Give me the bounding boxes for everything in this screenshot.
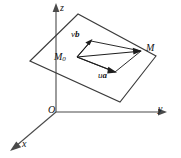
x-axis-label: x [22,139,26,149]
diagram-svg [0,0,181,158]
vector-ua-arrow-icon [107,67,117,74]
vector-vb-name: b [75,29,80,39]
vector-vb-arrow-icon [85,39,92,45]
x-axis [10,112,56,151]
point-m0-label: M0 [54,52,66,63]
point-m0-subscript: 0 [62,55,66,63]
y-axis-label: y [158,104,162,114]
vector-ua-name: a [103,70,108,80]
figure-canvas: z y x O M0 M vb ua [0,0,181,158]
y-axis [56,109,167,116]
parallelogram-edge-bottom [115,51,141,72]
plane-outline [30,14,156,102]
vector-ua-label: ua [98,71,107,80]
vector-m0m-shaft [77,52,137,58]
vector-ua [77,57,117,74]
vector-vb [77,39,93,57]
vector-ua-shaft [77,57,113,71]
plane-parallelogram [30,14,156,102]
z-axis-arrow-icon [53,3,60,12]
coordinate-axes [10,3,167,151]
vector-vb-label: vb [71,30,80,39]
z-axis-label: z [60,3,64,13]
point-m-label: M [146,43,154,53]
origin-label: O [48,105,55,115]
